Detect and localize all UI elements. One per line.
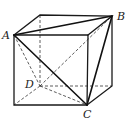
segment-DC [40,86,87,105]
segment-BC [87,16,112,105]
label-A: A [2,30,10,41]
segment-DB [40,16,112,86]
segment-AC [14,35,87,105]
label-B: B [117,11,125,22]
segment-AB [14,16,112,35]
cube-diagram [0,0,134,122]
label-C: C [83,109,91,120]
label-D: D [25,79,34,90]
